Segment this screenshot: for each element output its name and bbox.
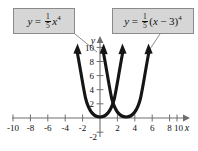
x-tick-label: -10	[7, 123, 19, 133]
figure-container: y = 1 5 x4 y = 1 5 (x−3)4	[0, 0, 198, 151]
x-tick-label: -8	[27, 123, 35, 133]
y-tick-label: 4	[90, 85, 95, 95]
x-tick-label: 2	[115, 123, 120, 133]
x-tick-label: 8	[167, 123, 172, 133]
y-tick-label: 8	[90, 57, 95, 67]
x-tick-label: -4	[61, 123, 69, 133]
y-axis-label: y	[90, 35, 96, 46]
y-tick-label: -2	[90, 132, 98, 142]
x-axis-label: x	[184, 122, 190, 133]
curve1-arrowhead-right	[118, 44, 126, 55]
curve2-arrowhead-right	[145, 44, 153, 55]
x-tick-label: 4	[133, 123, 138, 133]
x-tick-label: 6	[150, 123, 155, 133]
curve2-arrowhead-left	[100, 44, 108, 55]
x-tick-label: -2	[79, 123, 87, 133]
curve1-arrowhead-left	[73, 44, 81, 55]
y-tick-label: 6	[90, 71, 95, 81]
x-axis-arrowhead	[183, 115, 190, 122]
x-tick-label: 10	[174, 123, 184, 133]
y-tick-labels: 10 8 6 4 2 -2	[85, 43, 97, 142]
x-tick-label: -6	[44, 123, 52, 133]
plot-svg: -10 -8 -6 -4 -2 2 4 6 8 10 10 8 6 4 2 -2	[0, 0, 198, 151]
y-axis-arrowhead	[97, 36, 104, 43]
